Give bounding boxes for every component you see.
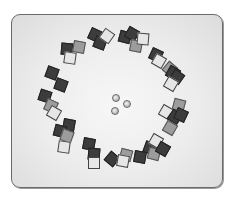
game-board[interactable] xyxy=(11,14,223,188)
tile-light[interactable] xyxy=(136,32,149,45)
tile-dark[interactable] xyxy=(53,77,68,92)
tile-light[interactable] xyxy=(116,154,130,168)
tile-light[interactable] xyxy=(63,51,77,65)
marble[interactable] xyxy=(111,107,119,115)
tile-light[interactable] xyxy=(57,140,71,154)
tile-light[interactable] xyxy=(88,157,100,169)
marble[interactable] xyxy=(123,100,131,108)
marble[interactable] xyxy=(112,94,120,102)
